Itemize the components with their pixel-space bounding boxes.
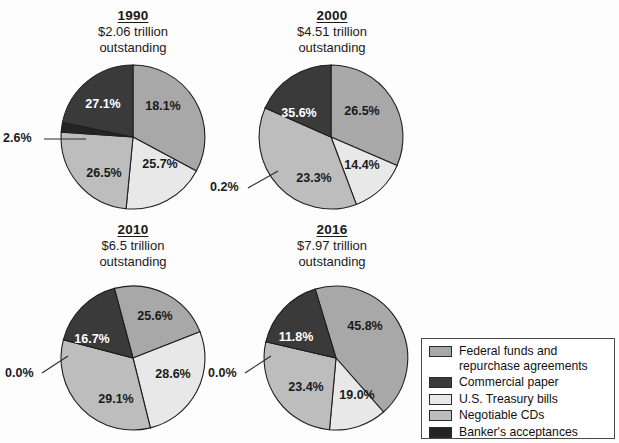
slice-value-commercial-paper-2000: 35.6% xyxy=(281,106,316,120)
chart-title-2010: 2010 $6.5 trillion outstanding xyxy=(38,222,228,270)
slice-value-commercial-paper-1990: 27.1% xyxy=(85,97,120,111)
slice-value-federal-funds-2000: 26.5% xyxy=(344,104,379,118)
legend-label-negotiable-cds: Negotiable CDs xyxy=(459,408,544,423)
legend-item-bankers-acceptances: Banker's acceptances xyxy=(429,425,608,440)
leader-line-bankers-2000 xyxy=(248,170,282,192)
chart-title-2000: 2000 $4.51 trillion outstanding xyxy=(237,8,427,56)
slice-value-treasury-bills-2010: 28.6% xyxy=(155,367,190,381)
slice-value-bankers-acceptances-2010: 0.0% xyxy=(5,366,34,380)
chart-subtitle-2000: outstanding xyxy=(237,40,427,56)
slice-value-negotiable-cds-2016: 23.4% xyxy=(288,380,323,394)
slice-value-bankers-acceptances-1990: 2.6% xyxy=(3,131,32,145)
legend-item-negotiable-cds: Negotiable CDs xyxy=(429,408,608,423)
chart-year-2000: 2000 xyxy=(237,8,427,24)
leader-line-bankers-2016 xyxy=(245,355,275,377)
leader-line-bankers-2010 xyxy=(42,355,72,377)
chart-amount-1990: $2.06 trillion xyxy=(38,24,228,40)
chart-subtitle-2016: outstanding xyxy=(237,254,427,270)
legend-swatch-treasury-bills xyxy=(429,394,452,405)
slice-value-treasury-bills-2000: 14.4% xyxy=(344,158,379,172)
slice-value-bankers-acceptances-2000: 0.2% xyxy=(210,180,239,194)
legend-swatch-commercial-paper xyxy=(429,377,452,388)
slice-value-commercial-paper-2016: 11.8% xyxy=(279,330,314,344)
chart-title-2016: 2016 $7.97 trillion outstanding xyxy=(237,222,427,270)
slice-value-negotiable-cds-2010: 29.1% xyxy=(98,392,133,406)
chart-year-2010: 2010 xyxy=(38,222,228,238)
pie-chart-figure: 1990 $2.06 trillion outstanding 18.1% 25… xyxy=(0,0,619,443)
legend-swatch-federal-funds xyxy=(429,346,452,357)
slice-value-federal-funds-2016: 45.8% xyxy=(347,319,382,333)
chart-subtitle-1990: outstanding xyxy=(38,40,228,56)
chart-year-2016: 2016 xyxy=(237,222,427,238)
legend: Federal funds and repurchase agreements … xyxy=(421,338,615,439)
slice-value-negotiable-cds-2000: 23.3% xyxy=(296,171,331,185)
chart-amount-2010: $6.5 trillion xyxy=(38,238,228,254)
legend-item-federal-funds: Federal funds and repurchase agreements xyxy=(429,344,608,373)
slice-value-treasury-bills-2016: 19.0% xyxy=(339,388,374,402)
pie-chart-2016: 45.8% 19.0% 23.4% 11.8% xyxy=(255,278,420,443)
legend-item-commercial-paper: Commercial paper xyxy=(429,375,608,390)
chart-amount-2000: $4.51 trillion xyxy=(237,24,427,40)
leader-line-bankers-1990 xyxy=(44,132,90,146)
legend-item-treasury-bills: U.S. Treasury bills xyxy=(429,392,608,407)
pie-chart-2010: 25.6% 28.6% 29.1% 16.7% xyxy=(55,278,220,443)
legend-label-federal-funds: Federal funds and repurchase agreements xyxy=(459,344,608,373)
chart-year-1990: 1990 xyxy=(38,8,228,24)
legend-swatch-bankers-acceptances xyxy=(429,427,452,438)
legend-label-treasury-bills: U.S. Treasury bills xyxy=(459,392,558,407)
slice-value-negotiable-cds-1990: 26.5% xyxy=(86,166,121,180)
pie-chart-2000: 26.5% 14.4% 23.3% 35.6% xyxy=(250,58,415,218)
slice-value-commercial-paper-2010: 16.7% xyxy=(74,332,109,346)
slice-value-federal-funds-1990: 18.1% xyxy=(145,99,180,113)
chart-title-1990: 1990 $2.06 trillion outstanding xyxy=(38,8,228,56)
legend-swatch-negotiable-cds xyxy=(429,410,452,421)
legend-label-commercial-paper: Commercial paper xyxy=(459,375,559,390)
legend-label-bankers-acceptances: Banker's acceptances xyxy=(459,425,578,440)
chart-subtitle-2010: outstanding xyxy=(38,254,228,270)
slice-value-treasury-bills-1990: 25.7% xyxy=(142,157,177,171)
slice-value-bankers-acceptances-2016: 0.0% xyxy=(208,366,237,380)
slice-value-federal-funds-2010: 25.6% xyxy=(137,309,172,323)
chart-amount-2016: $7.97 trillion xyxy=(237,238,427,254)
